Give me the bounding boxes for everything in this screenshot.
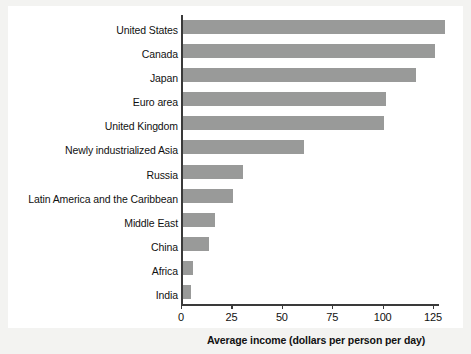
x-tick-mark [181, 304, 182, 309]
x-tick-label: 0 [178, 311, 184, 323]
x-tick-label: 75 [326, 311, 338, 323]
category-label: Latin America and the Caribbean [10, 193, 178, 205]
category-label: United States [10, 24, 178, 36]
bar [183, 116, 385, 130]
x-tick-mark [383, 304, 384, 309]
x-tick-mark [282, 304, 283, 309]
bar [183, 285, 191, 299]
category-label: Euro area [10, 96, 178, 108]
category-label: Japan [10, 72, 178, 84]
bar [183, 189, 233, 203]
chart-figure: United StatesCanadaJapanEuro areaUnited … [0, 0, 471, 354]
category-label: Canada [10, 48, 178, 60]
bar [183, 20, 445, 34]
category-axis-labels: United StatesCanadaJapanEuro areaUnited … [10, 18, 178, 298]
bar [183, 213, 215, 227]
category-label: Newly industrialized Asia [10, 144, 178, 156]
bar [183, 261, 193, 275]
x-axis-title: Average income (dollars per person per d… [181, 334, 451, 346]
plot-area: 0255075100125 [181, 15, 441, 304]
bar [183, 92, 387, 106]
x-tick-mark [433, 304, 434, 309]
bar [183, 237, 209, 251]
x-tick-label: 125 [424, 311, 442, 323]
category-label: United Kingdom [10, 120, 178, 132]
category-label: China [10, 241, 178, 253]
category-label: Russia [10, 169, 178, 181]
bar [183, 140, 304, 154]
x-tick-label: 25 [225, 311, 237, 323]
x-tick-label: 50 [276, 311, 288, 323]
category-label: India [10, 289, 178, 301]
category-label: Africa [10, 265, 178, 277]
x-tick-mark [231, 304, 232, 309]
category-label: Middle East [10, 217, 178, 229]
x-axis-line [181, 304, 439, 306]
x-tick-label: 100 [374, 311, 392, 323]
bar [183, 44, 435, 58]
x-tick-mark [332, 304, 333, 309]
bar [183, 165, 243, 179]
bar [183, 68, 417, 82]
